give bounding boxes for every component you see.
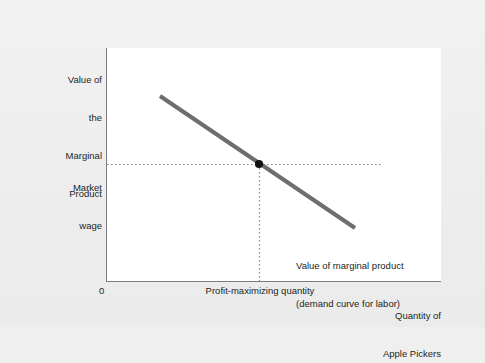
y-axis-title-line-2: the	[66, 112, 102, 125]
demand-curve-label-line-2: (demand curve for labor)	[296, 298, 404, 311]
demand-curve-label: Value of marginal product (demand curve …	[296, 235, 404, 336]
market-wage-label-line-2: wage	[73, 220, 102, 233]
market-wage-label-line-1: Market	[73, 182, 102, 195]
market-wage-label: Market wage	[73, 157, 102, 258]
demand-curve-label-line-1: Value of marginal product	[296, 260, 404, 273]
x-axis-title-line-2: Apple Pickers	[383, 348, 441, 361]
y-axis-line	[106, 48, 107, 282]
y-axis-title-line-1: Value of	[66, 74, 102, 87]
origin-label: 0	[99, 285, 104, 298]
